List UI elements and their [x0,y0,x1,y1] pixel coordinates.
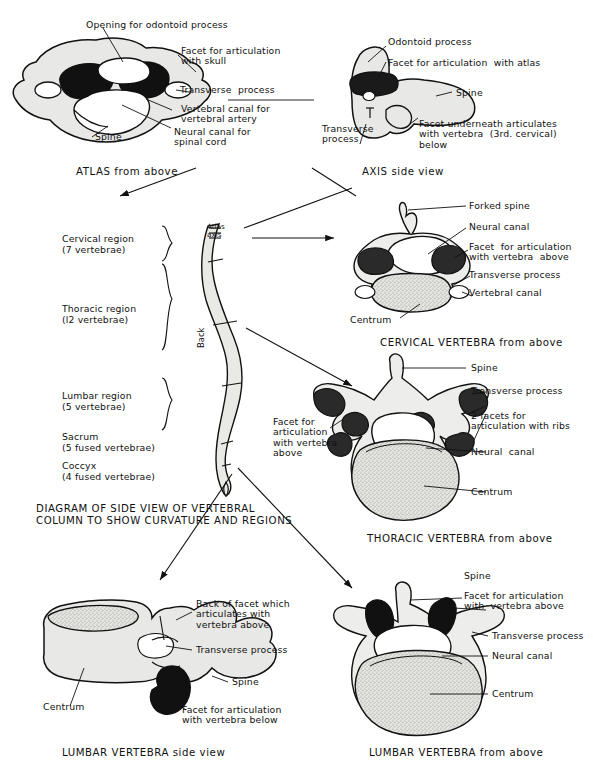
lumbar-side-label-transverse-process: Transverse process [196,645,288,655]
lumbar-above-label-transverse-process: Transverse process [492,631,584,641]
column-region-lumbar-name: Lumbar region [62,391,132,401]
column-back-label: Back [196,328,206,348]
cervical-label-facet-above: Facet for articulation with vertebra abo… [469,242,572,263]
column-caption: DIAGRAM OF SIDE VIEW OF VERTEBRAL COLUMN… [36,503,292,526]
column-region-coccyx-detail: (4 fused vertebrae) [62,472,155,482]
axis-label-facet-underneath: Facet underneath articulates with verteb… [419,119,557,150]
thoracic-label-neural-canal: Neural canal [471,447,535,457]
thoracic-label-facet-above: Facet for articulation with vertebra abo… [273,417,337,459]
lumbar-side-label-spine: Spine [232,677,259,687]
column-region-sacrum-name: Sacrum [62,432,98,442]
cervical-caption: CERVICAL VERTEBRA from above [380,337,563,349]
axis-caption: AXIS side view [362,166,444,178]
column-region-cervical-detail: (7 vertebrae) [62,245,126,255]
lumbar-above-label-facet-above: Facet for articulation with vertebra abo… [464,591,564,612]
cervical-label-vertebral-canal: Vertebral canal [469,288,542,298]
column-region-sacrum-detail: (5 fused vertebrae) [62,443,155,453]
cervical-label-neural-canal: Neural canal [469,222,529,232]
lumbar-side-label-back-of-facet: Back of facet which articulates with ver… [196,599,290,630]
atlas-label-vertebral-canal: Vertebral canal for vertebral artery [181,104,270,125]
lumbar-side-caption: LUMBAR VERTEBRA side view [62,747,225,759]
atlas-label-transverse-process: Transverse process [180,85,275,95]
atlas-label-neural-canal: Neural canal for spinal cord [174,127,251,148]
thoracic-label-transverse-process: Transverse process [471,386,563,396]
column-region-coccyx-name: Coccyx [62,461,96,471]
column-region-lumbar-detail: (5 vertebrae) [62,402,126,412]
cervical-label-forked-spine: Forked spine [469,201,530,211]
lumbar-above-label-spine: Spine [464,571,491,581]
lumbar-side-label-facet-below: Facet for articulation with vertebra bel… [182,705,282,726]
axis-label-facet-atlas: Facet for articulation with atlas [388,58,540,68]
thoracic-label-centrum: Centrum [471,487,513,497]
atlas-label-opening: Opening for odontoid process [86,20,228,30]
lumbar-above-label-neural-canal: Neural canal [492,651,552,661]
atlas-caption: ATLAS from above [76,166,178,178]
lumbar-side-label-centrum: Centrum [43,702,85,712]
column-region-thoracic-detail: (l2 vertebrae) [62,315,128,325]
thoracic-caption: THORACIC VERTEBRA from above [367,533,553,545]
axis-label-spine: Spine [456,88,483,98]
atlas-label-facet-skull: Facet for articulation with skull [181,46,281,67]
column-atlas-axis-label: Atlas axis [207,223,225,239]
cervical-label-centrum: Centrum [350,315,392,325]
lumbar-above-label-centrum: Centrum [492,689,534,699]
thoracic-label-spine: Spine [471,363,498,373]
axis-label-transverse-process: Transverse process [322,124,374,145]
column-region-cervical-name: Cervical region [62,234,134,244]
column-region-thoracic-name: Thoracic region [62,304,136,314]
cervical-label-transverse-process: Transverse process [469,270,561,280]
thoracic-label-two-facets: 2 facets for articulation with ribs [471,411,570,432]
axis-label-odontoid: Odontoid process [388,37,472,47]
atlas-label-spine: Spine [95,132,122,142]
lumbar-above-caption: LUMBAR VERTEBRA from above [369,747,543,759]
